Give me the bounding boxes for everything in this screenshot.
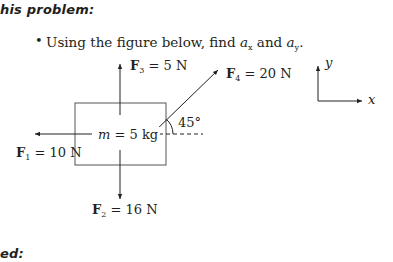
angle-arc	[166, 119, 173, 134]
force-label-f2: F2 = 16 N	[92, 202, 158, 217]
force-label-f4: F4 = 20 N	[226, 66, 292, 81]
force-label-f1: F1 = 10 N	[16, 145, 82, 160]
force-label-f3: F3 = 5 N	[130, 58, 187, 73]
axis-x-label: x	[368, 92, 375, 107]
free-body-diagram	[0, 0, 393, 262]
section-heading-bottom: ed:	[0, 246, 24, 261]
axis-y-label: y	[325, 55, 332, 70]
mass-var: m	[98, 127, 110, 142]
angle-label: 45°	[178, 115, 201, 130]
mass-label: m = 5 kg	[96, 127, 160, 142]
mass-value: = 5 kg	[110, 127, 158, 142]
